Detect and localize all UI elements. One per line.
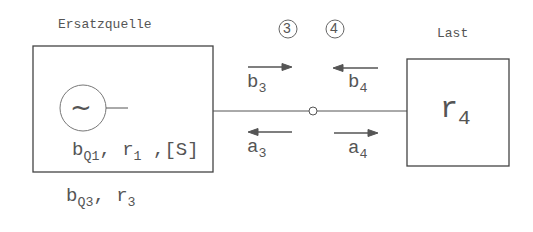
- wave-sub: 4: [359, 81, 367, 96]
- wave-base: a: [348, 137, 359, 159]
- port-3-label: 3: [283, 20, 291, 36]
- load-title: Last: [437, 26, 468, 41]
- port-4-label: 4: [330, 20, 338, 36]
- param-r: r: [105, 185, 128, 207]
- wave-sub: 3: [258, 146, 266, 161]
- param-b-sub: Q1: [83, 149, 99, 164]
- below-source-params: bQ3, r3: [66, 185, 136, 210]
- param-r-sub: 3: [128, 195, 136, 210]
- arrow-a3-left-icon: [248, 129, 292, 136]
- sep: ,: [142, 139, 165, 161]
- junction-node-icon: [309, 107, 317, 115]
- sep: ,: [93, 185, 104, 207]
- wave-sub: 4: [359, 147, 367, 162]
- wave-b4: b4: [348, 71, 367, 96]
- load-value-sub: 4: [458, 107, 471, 130]
- ac-source-symbol-icon: ~: [70, 92, 92, 122]
- wave-base: a: [247, 136, 258, 158]
- param-s: [S]: [164, 139, 198, 161]
- wave-sub: 3: [258, 81, 266, 96]
- param-b: b: [66, 185, 77, 207]
- param-r-sub: 1: [134, 149, 142, 164]
- source-title: Ersatzquelle: [58, 17, 152, 32]
- sep: ,: [99, 139, 110, 161]
- arrow-a4-right-icon: [334, 130, 378, 137]
- param-b: b: [72, 139, 83, 161]
- wave-b3: b3: [247, 71, 266, 96]
- load-value-base: r: [440, 92, 458, 126]
- wave-a3: a3: [247, 136, 266, 161]
- source-params: bQ1, r1 ,[S]: [72, 139, 199, 164]
- wave-a4: a4: [348, 137, 367, 162]
- arrow-b3-right-icon: [248, 64, 292, 71]
- wave-base: b: [247, 71, 258, 93]
- param-r: r: [111, 139, 134, 161]
- param-b-sub: Q3: [77, 195, 93, 210]
- wave-base: b: [348, 71, 359, 93]
- load-value: r4: [440, 92, 471, 130]
